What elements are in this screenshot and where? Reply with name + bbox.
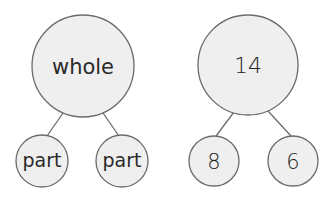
edge-whole-to-left-part	[47, 113, 63, 136]
part-value-label-6: 6	[286, 150, 299, 174]
generic-number-bond: whole part part	[16, 15, 148, 187]
part-value-label-8: 8	[207, 150, 220, 174]
left-part-label: part	[23, 149, 62, 171]
edge-14-to-8	[216, 112, 234, 136]
right-part-label: part	[103, 149, 142, 171]
edge-14-to-6	[268, 111, 291, 136]
number-bond-diagrams: whole part part 14 8 6	[0, 0, 333, 201]
whole-value-label: 14	[234, 53, 262, 78]
edge-whole-to-right-part	[103, 113, 119, 136]
whole-label: whole	[52, 55, 114, 79]
numeric-number-bond: 14 8 6	[189, 15, 318, 186]
